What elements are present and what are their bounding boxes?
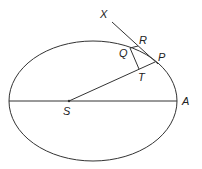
label-T: T <box>138 71 146 83</box>
label-P: P <box>158 51 166 63</box>
label-A: A <box>181 95 189 107</box>
orbit-diagram: X R Q P T S A <box>0 0 202 169</box>
label-Q: Q <box>119 47 128 59</box>
label-X: X <box>99 8 108 20</box>
line-QT <box>130 48 139 69</box>
label-R: R <box>139 34 147 46</box>
label-S: S <box>63 105 71 117</box>
focus-point-S <box>68 100 70 102</box>
